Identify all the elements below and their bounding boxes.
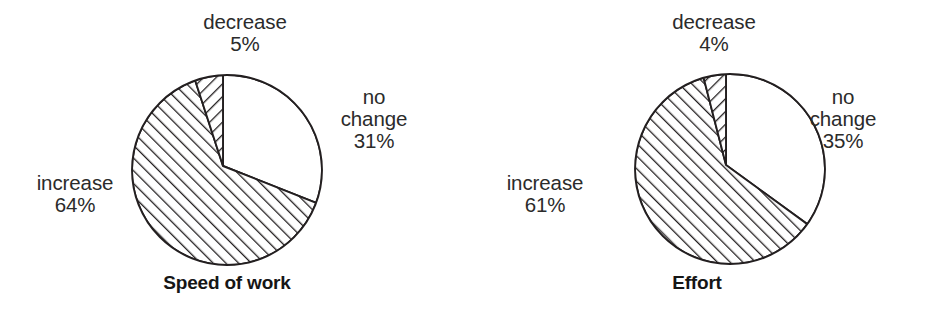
- pie-chart-panel-effort: decrease 4% no change 35% increase 61% E…: [467, 0, 933, 317]
- pie-label-increase: increase 64%: [0, 172, 155, 216]
- pie-slices-group: [132, 75, 322, 265]
- pie-label-no-change: no change 31%: [314, 86, 434, 152]
- pie-label-no-change-value: 35%: [783, 130, 903, 152]
- pie-label-decrease-value: 5%: [155, 33, 335, 55]
- pie-label-no-change-line2: change: [314, 108, 434, 130]
- pie-label-no-change-line2: change: [783, 108, 903, 130]
- pie-label-decrease-name: decrease: [624, 11, 804, 33]
- pie-label-decrease-value: 4%: [624, 33, 804, 55]
- pie-label-increase-name: increase: [0, 172, 155, 194]
- pie-label-decrease: decrease 5%: [155, 11, 335, 55]
- pie-label-increase: increase 61%: [465, 172, 625, 216]
- pie-chart-title-effort: Effort: [577, 272, 817, 294]
- pie-label-no-change: no change 35%: [783, 86, 903, 152]
- pie-chart-panel-speed-of-work: decrease 5% no change 31% increase 64% S…: [0, 0, 466, 317]
- pie-chart-figure: decrease 5% no change 31% increase 64% S…: [0, 0, 933, 317]
- pie-label-decrease-name: decrease: [155, 11, 335, 33]
- pie-label-decrease: decrease 4%: [624, 11, 804, 55]
- pie-label-increase-value: 64%: [0, 194, 155, 216]
- pie-label-no-change-line1: no: [783, 86, 903, 108]
- pie-label-no-change-value: 31%: [314, 130, 434, 152]
- pie-label-increase-name: increase: [465, 172, 625, 194]
- pie-chart-title-speed-of-work: Speed of work: [107, 272, 347, 294]
- pie-label-no-change-line1: no: [314, 86, 434, 108]
- pie-label-increase-value: 61%: [465, 194, 625, 216]
